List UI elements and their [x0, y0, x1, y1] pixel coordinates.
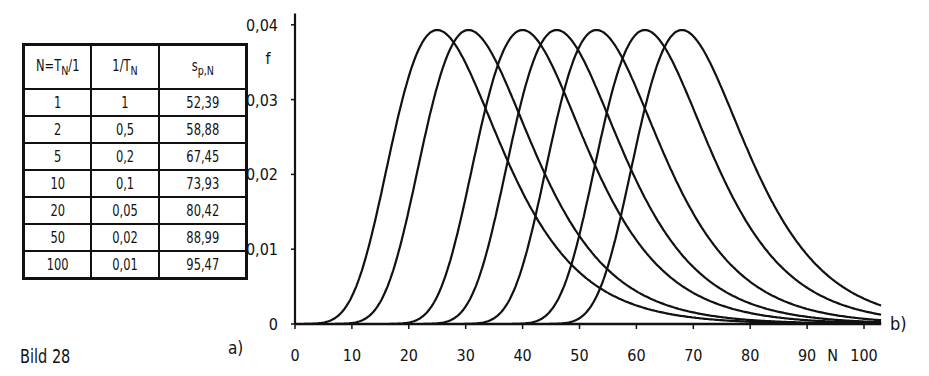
y-tick-label: 0,04 — [246, 16, 278, 35]
x-tick-label: 100 — [850, 346, 877, 365]
x-tick-label: 80 — [741, 346, 759, 365]
y-tick-label: 0,01 — [246, 240, 278, 259]
x-tick-label: 50 — [570, 346, 588, 365]
density-chart: 0102030405060708090100N00,010,020,030,04… — [0, 0, 929, 376]
y-tick-label: 0,02 — [246, 165, 278, 184]
x-tick-label: 20 — [400, 346, 418, 365]
x-tick-label: 90 — [798, 346, 816, 365]
x-axis-label: N — [827, 346, 838, 365]
x-tick-label: 60 — [627, 346, 645, 365]
x-tick-label: 0 — [290, 346, 299, 365]
density-curve — [295, 30, 881, 324]
y-tick-label: 0,03 — [246, 91, 278, 110]
curves — [295, 30, 881, 324]
y-tick-label: 0 — [269, 315, 278, 334]
x-tick-label: 70 — [684, 346, 702, 365]
y-axis-label: f — [265, 49, 271, 68]
x-tick-label: 40 — [513, 346, 531, 365]
x-tick-label: 30 — [457, 346, 475, 365]
x-tick-label: 10 — [343, 346, 361, 365]
